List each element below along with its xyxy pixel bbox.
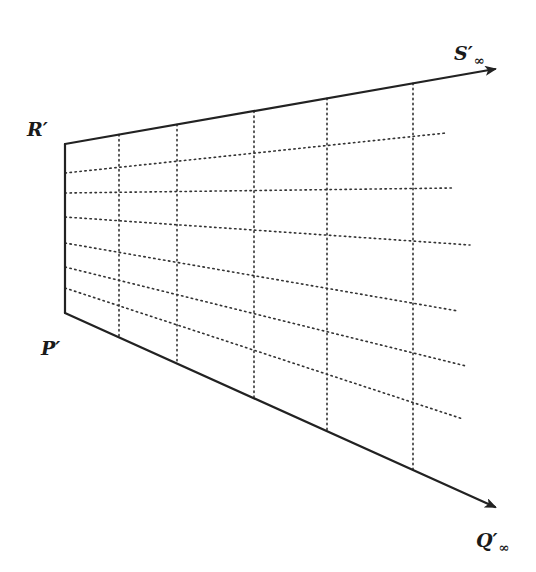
- boundary-edges: [65, 69, 495, 507]
- label-p-prime-text: P′: [41, 337, 60, 359]
- infinity-subscript: ∞: [499, 540, 510, 555]
- horizontal-dotted-line: [65, 188, 453, 193]
- arrow-p-to-q-infinity: [65, 313, 495, 507]
- label-p-prime: P′: [41, 339, 60, 358]
- arrow-r-to-s-infinity: [65, 69, 495, 144]
- infinity-subscript: ∞: [474, 53, 485, 68]
- horizontal-dotted-line: [65, 288, 463, 419]
- label-q-prime-text: Q′: [476, 529, 498, 551]
- label-q-prime-infinity: Q′∞: [476, 531, 509, 550]
- label-r-prime: R′: [27, 120, 48, 139]
- horizontal-dotted-line: [65, 243, 458, 311]
- horizontal-dotted-line: [65, 217, 470, 245]
- label-s-prime-infinity: S′∞: [454, 44, 485, 63]
- horizontal-dotted-line: [65, 133, 446, 173]
- horizontal-dotted-lines: [65, 133, 470, 419]
- label-s-prime-text: S′: [454, 42, 473, 64]
- label-r-prime-text: R′: [27, 118, 48, 140]
- projective-grid-diagram: [0, 0, 536, 572]
- horizontal-dotted-line: [65, 267, 466, 366]
